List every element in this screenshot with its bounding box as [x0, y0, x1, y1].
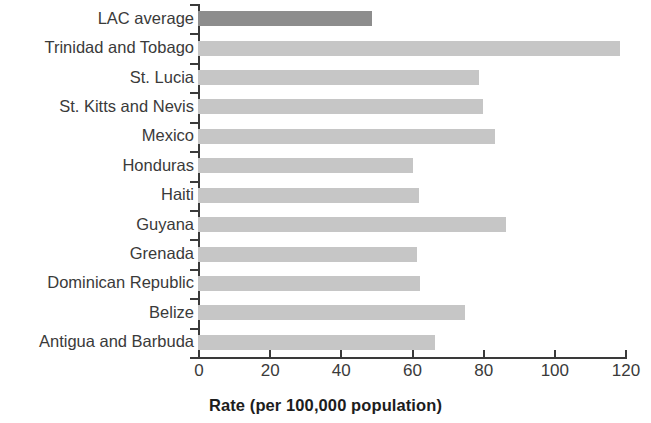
y-axis-tick [190, 269, 198, 271]
y-axis-tick [190, 210, 198, 212]
y-axis-tick [190, 298, 198, 300]
bar-row [198, 63, 625, 92]
x-axis-tick [269, 350, 271, 359]
y-axis-label: Antigua and Barbuda [39, 333, 194, 350]
bar [198, 41, 620, 56]
bar [198, 158, 413, 173]
y-axis-label: Grenada [130, 245, 194, 262]
y-axis-tick [190, 63, 198, 65]
x-axis-tick [412, 350, 414, 359]
x-axis-tick-label: 120 [596, 361, 651, 381]
x-axis-tick-label: 40 [311, 361, 371, 381]
bar-row [198, 92, 625, 121]
y-axis-tick [190, 328, 198, 330]
y-axis-tick [190, 357, 198, 359]
y-axis-tick [190, 239, 198, 241]
bar [198, 217, 506, 232]
bar-row [198, 239, 625, 268]
y-axis-label: Belize [149, 304, 194, 321]
x-axis-tick [340, 350, 342, 359]
y-axis-tick [190, 92, 198, 94]
y-axis-label: LAC average [98, 10, 194, 27]
x-axis-tick-label: 100 [525, 361, 585, 381]
bar-row [198, 122, 625, 151]
bar [198, 188, 419, 203]
bar-row [198, 269, 625, 298]
y-axis-tick [190, 151, 198, 153]
bar-row [198, 151, 625, 180]
bar [198, 11, 372, 26]
plot-area [198, 4, 625, 358]
y-axis-tick [190, 33, 198, 35]
y-axis-label: St. Kitts and Nevis [59, 98, 194, 115]
x-axis-tick-label: 60 [383, 361, 443, 381]
y-axis-tick [190, 122, 198, 124]
y-axis-tick [190, 4, 198, 6]
bar-row [198, 210, 625, 239]
bar [198, 305, 465, 320]
x-axis-tick-label: 20 [240, 361, 300, 381]
x-axis-tick-label: 0 [169, 361, 229, 381]
y-axis-label: Mexico [142, 127, 194, 144]
x-axis-tick [625, 350, 627, 359]
x-axis-tick [483, 350, 485, 359]
y-axis-label: St. Lucia [130, 69, 194, 86]
y-axis-label: Guyana [136, 216, 194, 233]
bar-row [198, 181, 625, 210]
x-axis-tick-label: 80 [454, 361, 514, 381]
bar [198, 335, 435, 350]
x-axis-tick [198, 350, 200, 359]
x-axis-tick [554, 350, 556, 359]
bar-row [198, 298, 625, 327]
bar-row [198, 4, 625, 33]
bar-row [198, 33, 625, 62]
y-axis-label: Haiti [161, 186, 194, 203]
bar [198, 129, 495, 144]
y-axis-label: Dominican Republic [47, 274, 194, 291]
bar-chart: LAC averageTrinidad and TobagoSt. LuciaS… [0, 0, 651, 423]
x-axis-title: Rate (per 100,000 population) [0, 396, 651, 415]
bar [198, 99, 483, 114]
bar [198, 70, 479, 85]
y-axis-label: Trinidad and Tobago [44, 39, 194, 56]
bar [198, 247, 417, 262]
y-axis-label: Honduras [122, 157, 194, 174]
y-axis-tick [190, 181, 198, 183]
bar [198, 276, 420, 291]
